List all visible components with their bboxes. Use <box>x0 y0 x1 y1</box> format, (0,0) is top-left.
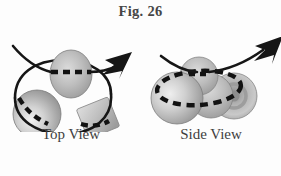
arrowhead-icon <box>102 52 132 79</box>
top-view-caption: Top View <box>1 126 141 143</box>
sphere-front-left <box>151 72 203 124</box>
side-view-illustration <box>141 22 281 132</box>
figure-container: Fig. 26 <box>0 0 281 176</box>
panel-side-view: Side View <box>141 22 281 176</box>
top-view-illustration <box>1 22 141 132</box>
side-view-caption: Side View <box>141 126 281 143</box>
panel-top-view: Top View <box>1 22 141 176</box>
rotation-arrow <box>161 36 281 72</box>
arrowhead-icon <box>254 36 281 64</box>
figure-title: Fig. 26 <box>0 3 281 20</box>
